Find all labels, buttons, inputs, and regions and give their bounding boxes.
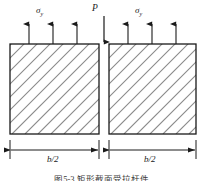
figure-container: σy P σy b/2 b/2 图5-3 矩形截面受拉杆件 [0,0,203,181]
dimension-label-right: b/2 [144,155,156,164]
tension-arrows-right [128,24,176,44]
right-block-hatching [7,24,203,134]
figure-caption: 图5-3 矩形截面受拉杆件 [0,172,203,181]
tension-arrows-left [29,24,77,44]
left-block-hatching [0,24,200,134]
sigma-y-left-label: σy [36,6,43,17]
sigma-right-subscript: y [139,11,142,17]
sigma-y-right-label: σy [135,6,142,17]
sigma-left-subscript: y [40,11,43,17]
stress-diagram-svg [0,0,203,181]
load-p-label: P [92,4,98,14]
dimension-label-left: b/2 [47,155,59,164]
